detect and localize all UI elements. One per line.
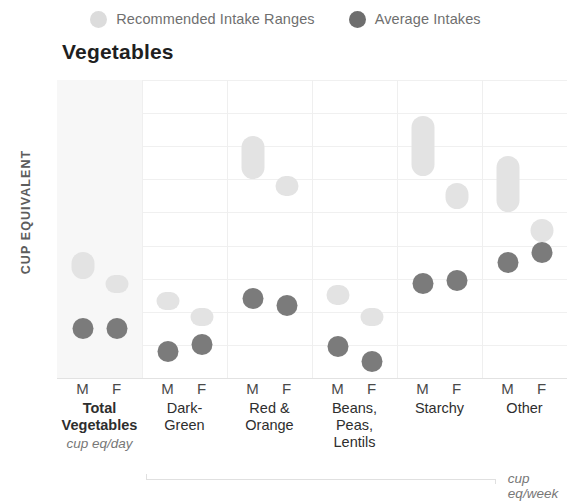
recommended-range-bar [411, 116, 434, 176]
group-separator [312, 80, 313, 378]
recommended-range-bar [530, 219, 553, 242]
group-label-line: Peas, [299, 417, 410, 434]
recommended-range-bar [156, 292, 179, 310]
average-intake-dot [276, 295, 297, 316]
recommended-range-bar [190, 308, 213, 326]
average-intake-dot [106, 318, 127, 339]
average-intake-dot [412, 273, 433, 294]
x-axis-sex-tick: F [197, 380, 206, 397]
group-separator [142, 80, 143, 378]
average-intake-dot [242, 288, 263, 309]
unit-note-day: cup eq/day [66, 436, 132, 451]
x-axis-sex-tick: M [416, 380, 429, 397]
legend-item-recommended-intake-ranges: Recommended Intake Ranges [90, 11, 314, 28]
recommended-range-bar [326, 285, 349, 305]
x-axis-sex-tick: F [282, 380, 291, 397]
x-axis-group-label: Other [469, 400, 571, 417]
average-intake-dot [327, 336, 348, 357]
group-separator [482, 80, 483, 378]
group-label-line: Other [469, 400, 571, 417]
x-axis-sex-tick: F [452, 380, 461, 397]
legend-label-averages: Average Intakes [375, 11, 481, 27]
chart-legend: Recommended Intake Ranges Average Intake… [0, 4, 571, 34]
y-axis-title: CUP EQUIVALENT [19, 142, 33, 282]
recommended-range-bar [445, 183, 468, 209]
plot-area: 0123456789 [57, 80, 567, 378]
average-intake-dot [191, 334, 212, 355]
group-label-line: Lentils [299, 434, 410, 451]
chart-title: Vegetables [62, 40, 174, 64]
average-intake-dot [361, 351, 382, 372]
average-intake-dot [497, 252, 518, 273]
x-axis-area: MFTotalVegetablesMFDark-GreenMFRed &Oran… [57, 378, 567, 496]
unit-span-tick [146, 474, 147, 479]
unit-span-rule [146, 479, 495, 480]
x-axis-sex-tick: F [537, 380, 546, 397]
range-swatch-icon [90, 11, 107, 28]
recommended-range-bar [105, 275, 128, 293]
recommended-range-bar [275, 176, 298, 196]
x-axis-sex-tick: F [112, 380, 121, 397]
legend-label-ranges: Recommended Intake Ranges [116, 11, 314, 27]
average-intake-dot [157, 341, 178, 362]
unit-span-tick [495, 479, 496, 484]
average-intake-dot [72, 318, 93, 339]
group-separator [397, 80, 398, 378]
legend-item-average-intakes: Average Intakes [349, 11, 481, 28]
x-axis-sex-tick: M [331, 380, 344, 397]
x-axis-sex-tick: M [246, 380, 259, 397]
recommended-range-bar [496, 156, 519, 212]
highlighted-group-panel [57, 80, 142, 378]
unit-note-week: cup eq/week [508, 471, 558, 501]
x-axis-sex-tick: M [76, 380, 89, 397]
x-axis-sex-tick: M [161, 380, 174, 397]
group-separator [227, 80, 228, 378]
recommended-range-bar [360, 308, 383, 326]
x-axis-sex-tick: M [501, 380, 514, 397]
average-intake-dot [446, 270, 467, 291]
recommended-range-bar [241, 136, 264, 179]
average-swatch-icon [349, 11, 366, 28]
recommended-range-bar [71, 252, 94, 278]
average-intake-dot [531, 242, 552, 263]
x-axis-sex-tick: F [367, 380, 376, 397]
